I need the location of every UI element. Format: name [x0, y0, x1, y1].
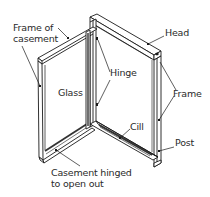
fixed-frame	[90, 14, 161, 167]
label-hinge: Hinge	[110, 67, 137, 78]
label-head: Head	[165, 27, 189, 38]
label-frame-of-casement-2: casement	[13, 33, 58, 44]
label-casement-hinged-2: to open out	[51, 178, 104, 189]
casement-window-diagram: Frame of casement Head Hinge Glass Frame…	[0, 0, 210, 197]
label-post: Post	[175, 137, 194, 148]
label-frame-of-casement-1: Frame of	[13, 22, 53, 33]
label-casement-hinged-1: Casement hinged	[51, 167, 132, 178]
label-cill: Cill	[130, 121, 144, 132]
label-glass: Glass	[58, 87, 83, 98]
label-frame: Frame	[173, 88, 202, 99]
